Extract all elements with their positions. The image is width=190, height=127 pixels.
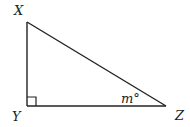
vertex-label-x: X bbox=[13, 3, 24, 18]
vertex-label-z: Z bbox=[174, 108, 185, 123]
angle-label-z: m° bbox=[121, 91, 140, 106]
side-xz-hypotenuse bbox=[27, 22, 166, 106]
right-triangle-diagram: X Y Z m° bbox=[0, 0, 190, 127]
vertex-label-y: Y bbox=[12, 109, 22, 124]
right-angle-marker-icon bbox=[27, 97, 36, 106]
